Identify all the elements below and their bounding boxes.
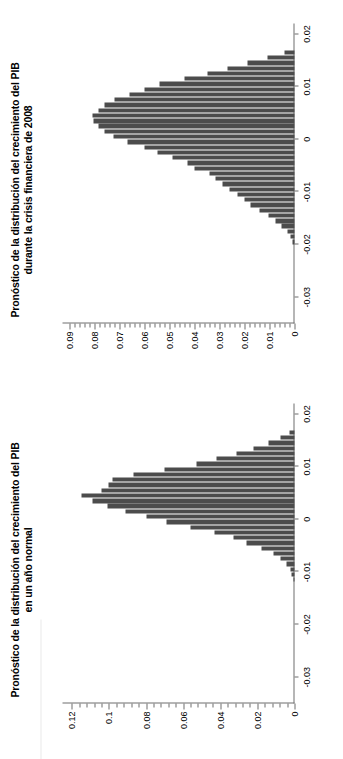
histogram-bar	[108, 482, 294, 486]
histogram-bar	[291, 572, 294, 576]
y-axis-minor-tick	[99, 323, 100, 327]
y-axis-minor-tick	[264, 703, 265, 707]
y-axis-minor-tick	[212, 703, 213, 707]
histogram-bar	[209, 171, 294, 175]
histogram-bar	[286, 561, 294, 565]
panel-normal-year-plot-area: -0.03-0.02-0.0100.010.0200.020.040.060.0…	[62, 403, 294, 703]
x-axis-tick-label: -0.03	[301, 286, 311, 307]
histogram-bar	[98, 123, 294, 127]
y-axis-minor-tick	[184, 323, 185, 327]
panel-normal-year-title: Pronóstico de la distribución del crecim…	[8, 380, 34, 759]
y-axis-minor-tick	[79, 323, 80, 327]
x-axis-tick	[294, 190, 298, 191]
y-axis-minor-tick	[239, 323, 240, 327]
panel-normal-year: Pronóstico de la distribución del crecim…	[0, 380, 343, 759]
y-axis-minor-tick	[214, 323, 215, 327]
panel-crisis-2008-plot-area: -0.03-0.02-0.0100.010.0200.010.020.030.0…	[62, 23, 294, 323]
histogram-bar	[237, 192, 294, 196]
y-axis-tick	[169, 323, 170, 329]
histogram-bar	[125, 509, 294, 513]
x-axis-tick	[294, 676, 298, 677]
histogram-bar	[194, 166, 294, 170]
y-axis-tick-label: 0.07	[114, 331, 124, 349]
histogram-bar	[268, 440, 294, 444]
y-axis-tick	[294, 323, 295, 329]
y-axis-minor-tick	[138, 703, 139, 707]
y-axis-tick-label: 0.01	[264, 331, 274, 349]
two-panel-histogram-figure: Pronóstico de la distribución del crecim…	[0, 0, 343, 759]
x-axis-tick-label: 0	[301, 516, 311, 521]
y-axis-minor-tick	[179, 323, 180, 327]
y-axis-minor-tick	[279, 323, 280, 327]
x-axis-tick	[294, 570, 298, 571]
histogram-bar	[280, 556, 294, 560]
y-axis-minor-tick	[234, 323, 235, 327]
histogram-bar	[107, 503, 294, 507]
histogram-bar	[112, 477, 294, 481]
y-axis-tick-label: 0	[289, 711, 299, 716]
y-axis-minor-tick	[199, 323, 200, 327]
histogram-bar	[144, 87, 294, 91]
y-axis-minor-tick	[204, 323, 205, 327]
histogram-bar	[98, 108, 294, 112]
y-axis-minor-tick	[159, 323, 160, 327]
histogram-bar	[101, 488, 294, 492]
histogram-bar	[253, 446, 294, 450]
histogram-bar	[207, 71, 294, 75]
y-axis-minor-tick	[272, 703, 273, 707]
y-axis-tick-label: 0	[289, 331, 299, 336]
y-axis-tick-label: 0.05	[164, 331, 174, 349]
y-axis-minor-tick	[168, 703, 169, 707]
y-axis-minor-tick	[249, 703, 250, 707]
y-axis-minor-tick	[149, 323, 150, 327]
y-axis-minor-tick	[94, 703, 95, 707]
y-axis-minor-tick	[289, 323, 290, 327]
y-axis-tick-label: 0.06	[178, 711, 188, 729]
y-axis-minor-tick	[174, 323, 175, 327]
histogram-bar	[157, 150, 294, 154]
y-axis-minor-tick	[86, 703, 87, 707]
histogram-bar	[164, 467, 294, 471]
y-axis-minor-tick	[259, 323, 260, 327]
panel-crisis-2008-title-line1: Pronóstico de la distribución del crecim…	[8, 0, 21, 379]
histogram-bar	[93, 118, 294, 122]
histogram-bar	[104, 129, 294, 133]
y-axis-minor-tick	[160, 703, 161, 707]
histogram-bar	[159, 81, 294, 85]
histogram-bar	[92, 498, 294, 502]
y-axis-minor-tick	[224, 323, 225, 327]
histogram-bar	[214, 530, 294, 534]
y-axis-tick	[294, 703, 295, 709]
y-axis-tick	[219, 323, 220, 329]
histogram-bar	[92, 113, 294, 117]
y-axis-minor-tick	[101, 703, 102, 707]
y-axis-minor-tick	[254, 323, 255, 327]
y-axis-minor-tick	[116, 703, 117, 707]
panel-normal-year-title-line1: Pronóstico de la distribución del crecim…	[8, 380, 21, 759]
x-axis-tick-label: 0.01	[301, 77, 311, 95]
histogram-bar	[144, 145, 294, 149]
y-axis-minor-tick	[131, 703, 132, 707]
y-axis-minor-tick	[124, 323, 125, 327]
y-axis-minor-tick	[279, 703, 280, 707]
y-axis-minor-tick	[153, 703, 154, 707]
x-axis-tick-label: -0.01	[301, 561, 311, 582]
x-axis-tick	[294, 465, 298, 466]
y-axis-minor-tick	[190, 703, 191, 707]
y-axis-tick-label: 0.08	[89, 331, 99, 349]
y-axis-tick	[220, 703, 221, 709]
y-axis-tick-label: 0.02	[239, 331, 249, 349]
y-axis-tick-label: 0.09	[64, 331, 74, 349]
y-axis-minor-tick	[74, 323, 75, 327]
y-axis-minor-tick	[129, 323, 130, 327]
x-axis-tick	[294, 138, 298, 139]
y-axis-minor-tick	[287, 703, 288, 707]
histogram-bar	[190, 525, 294, 529]
histogram-bar	[261, 546, 294, 550]
histogram-bar	[196, 461, 294, 465]
panel-crisis-2008-title-line2: durante la crisis financiera de 2008	[21, 0, 34, 379]
histogram-bar	[229, 187, 294, 191]
histogram-bar	[187, 160, 294, 164]
y-axis-minor-tick	[197, 703, 198, 707]
y-axis-minor-tick	[227, 703, 228, 707]
